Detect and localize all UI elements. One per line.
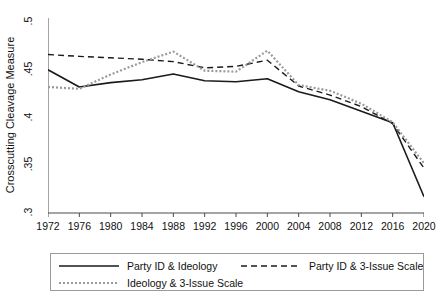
x-tick-label: 2004 (282, 220, 316, 232)
legend-entry-0: Party ID & Ideology (59, 257, 217, 274)
y-axis-title: Crosscutting Cleavage Measure (4, 0, 22, 240)
x-tick-label: 2016 (376, 220, 410, 232)
x-tick-label: 1996 (219, 220, 253, 232)
y-tick-label: .35 (22, 152, 34, 176)
plot-area (48, 18, 424, 217)
plot-svg (48, 18, 424, 217)
series-line-2 (48, 51, 424, 164)
x-tick-label: 2020 (407, 220, 440, 232)
dashed-line-key (241, 261, 301, 271)
solid-line-key (59, 261, 119, 271)
legend-label-2: Ideology & 3-Issue Scale (127, 277, 243, 289)
legend-entry-1: Party ID & 3-Issue Scale (241, 257, 423, 274)
legend-label-1: Party ID & 3-Issue Scale (309, 260, 423, 272)
y-tick-label: .5 (22, 9, 34, 33)
x-tick-label: 1992 (188, 220, 222, 232)
legend-label-0: Party ID & Ideology (127, 260, 217, 272)
x-tick-label: 2000 (250, 220, 284, 232)
x-tick-label: 1984 (125, 220, 159, 232)
legend-entry-2: Ideology & 3-Issue Scale (59, 274, 243, 291)
x-tick-label: 2012 (344, 220, 378, 232)
x-tick-label: 1972 (31, 220, 65, 232)
y-tick-label: .4 (22, 105, 34, 129)
y-tick-label: .45 (22, 57, 34, 81)
x-tick-label: 1988 (156, 220, 190, 232)
x-tick-label: 1980 (94, 220, 128, 232)
series-line-0 (48, 70, 424, 197)
x-tick-label: 1976 (62, 220, 96, 232)
x-tick-label: 2008 (313, 220, 347, 232)
dotted-line-key (59, 278, 119, 288)
chart-legend: Party ID & Ideology Ideology & 3-Issue S… (50, 253, 424, 291)
